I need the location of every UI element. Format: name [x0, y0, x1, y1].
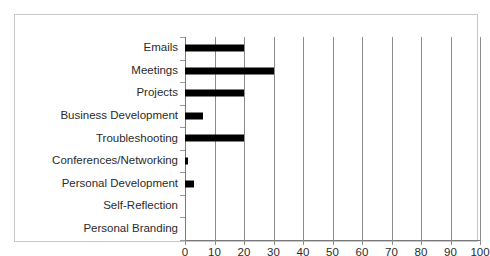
y-axis-label: Emails — [33, 42, 178, 54]
bar-row — [185, 172, 480, 195]
y-axis-label: Troubleshooting — [33, 133, 178, 145]
chart-frame: Emails Meetings Projects Business Develo… — [14, 14, 478, 242]
bar-row — [185, 150, 480, 173]
x-axis-tick-label: 80 — [415, 247, 428, 256]
x-axis-tick-label: 30 — [267, 247, 280, 256]
y-axis-label: Conferences/Networking — [33, 155, 178, 167]
x-axis-tick — [451, 240, 452, 245]
y-axis-label: Business Development — [33, 110, 178, 122]
bar-chart-figure: Emails Meetings Projects Business Develo… — [0, 0, 490, 256]
y-axis-label: Personal Development — [33, 178, 178, 190]
x-axis-tick — [421, 240, 422, 245]
x-axis-tick-label: 50 — [326, 247, 339, 256]
bar-row — [185, 82, 480, 105]
y-axis-category-labels: Emails Meetings Projects Business Develo… — [33, 37, 178, 240]
plot-area — [185, 37, 480, 240]
x-axis-tick-label: 60 — [356, 247, 369, 256]
x-axis-tick-label: 10 — [208, 247, 221, 256]
x-axis-tick-label: 20 — [238, 247, 251, 256]
x-axis-ticks — [185, 240, 481, 245]
bar — [185, 135, 244, 142]
bar-row — [185, 105, 480, 128]
bar-row — [185, 37, 480, 60]
x-axis-tick — [333, 240, 334, 245]
bar — [185, 180, 194, 187]
bar-row — [185, 217, 480, 240]
bar-row — [185, 127, 480, 150]
bar-row — [185, 60, 480, 83]
bar — [185, 90, 244, 97]
x-axis-tick — [362, 240, 363, 245]
x-axis-tick — [303, 240, 304, 245]
bar — [185, 45, 244, 52]
bars-layer — [185, 37, 480, 240]
bar — [185, 158, 188, 165]
x-axis-tick-labels: 0102030405060708090100 — [185, 247, 481, 256]
x-axis-tick-label: 90 — [444, 247, 457, 256]
x-axis-tick-label: 40 — [297, 247, 310, 256]
y-axis-label: Meetings — [33, 65, 178, 77]
y-axis-label: Projects — [33, 87, 178, 99]
bar-row — [185, 195, 480, 218]
gridline — [480, 37, 481, 240]
x-axis-tick — [185, 240, 186, 245]
x-axis-tick — [480, 240, 481, 245]
bar — [185, 67, 274, 74]
x-axis-tick-label: 100 — [470, 247, 489, 256]
x-axis-tick — [274, 240, 275, 245]
x-axis-tick-label: 0 — [182, 247, 188, 256]
x-axis-tick — [215, 240, 216, 245]
x-axis-tick — [244, 240, 245, 245]
y-axis-label: Personal Branding — [33, 223, 178, 235]
y-axis-label: Self-Reflection — [33, 200, 178, 212]
bar — [185, 112, 203, 119]
x-axis-tick-label: 70 — [385, 247, 398, 256]
x-axis-tick — [392, 240, 393, 245]
